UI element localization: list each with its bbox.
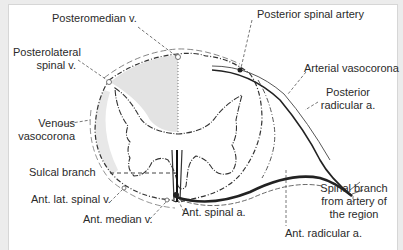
posterolateral-vein bbox=[107, 80, 112, 85]
label-ant-radicular-artery: Ant. radicular a. bbox=[285, 227, 362, 240]
posterior-spinal-artery-dot bbox=[238, 68, 243, 73]
label-spinal-branch-line1: Spinal branch bbox=[318, 182, 390, 195]
label-ant-spinal-artery: Ant. spinal a. bbox=[182, 206, 246, 219]
label-venous-vasocorona-line2: vasocorona bbox=[13, 130, 75, 143]
label-ant-lat-spinal-vein: Ant. lat. spinal v. bbox=[31, 193, 111, 206]
label-spinal-branch-line2: from artery of bbox=[318, 195, 390, 208]
label-posterolateral-vein-line1: Posterolateral bbox=[13, 46, 76, 59]
label-venous-vasocorona-line1: Venous bbox=[13, 117, 75, 130]
label-posterolateral-vein-line2: spinal v. bbox=[13, 59, 76, 72]
ant-lat-spinal-vein bbox=[122, 186, 126, 190]
label-posteromedian-vein: Posteromedian v. bbox=[52, 12, 137, 25]
label-posterior-radicular-line1: Posterior bbox=[316, 86, 380, 99]
posteromedian-vein bbox=[176, 55, 181, 60]
label-sulcal-branch: Sulcal branch bbox=[29, 166, 96, 179]
label-ant-median-vein: Ant. median v. bbox=[83, 213, 153, 226]
label-posterior-spinal-artery: Posterior spinal artery bbox=[257, 8, 364, 21]
grey-matter bbox=[115, 88, 242, 189]
label-posterior-radicular-line2: radicular a. bbox=[316, 99, 380, 112]
ant-median-vein bbox=[165, 198, 169, 202]
label-arterial-vasocorona: Arterial vasocorona bbox=[304, 62, 399, 75]
label-spinal-branch-line3: the region bbox=[318, 208, 390, 221]
posterior-shaded-territory bbox=[110, 55, 178, 132]
